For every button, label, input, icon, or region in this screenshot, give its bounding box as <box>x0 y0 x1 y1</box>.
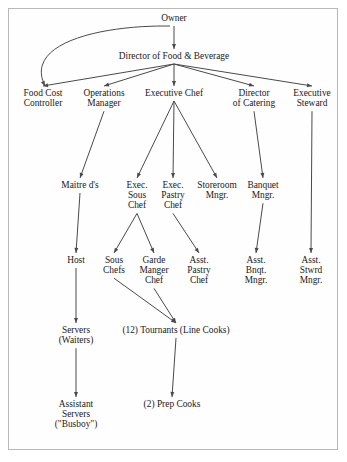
node-label-ops_mgr: OperationsManager <box>83 88 124 108</box>
org-chart-svg: OwnerDirector of Food & BeverageFood Cos… <box>0 0 347 462</box>
node-label-banquet: BanquetMngr. <box>247 180 279 200</box>
edge-exec_steward-to-asst_stwrd <box>309 111 313 253</box>
edge-dir_fb-to-ops_mgr <box>104 64 174 86</box>
node-sous_chefs[interactable]: SousChefs <box>103 255 125 275</box>
node-garde_manger[interactable]: GardeMangerChef <box>139 255 169 285</box>
node-exec_pastry[interactable]: Exec.PastryChef <box>161 180 185 210</box>
edge-garde_manger-to-tournants <box>154 288 176 323</box>
nodes-layer: OwnerDirector of Food & BeverageFood Cos… <box>24 13 331 430</box>
node-dir_catering[interactable]: Directorof Catering <box>233 88 276 108</box>
node-tournants[interactable]: (12) Tournants (Line Cooks) <box>122 325 229 336</box>
node-banquet[interactable]: BanquetMngr. <box>247 180 279 200</box>
node-label-exec_chef: Executive Chef <box>145 88 204 98</box>
node-exec_sous[interactable]: Exec.SousChef <box>126 180 147 210</box>
edge-dir_catering-to-banquet <box>254 111 264 178</box>
node-label-garde_manger: GardeMangerChef <box>139 255 169 285</box>
node-label-asst_stwrd: Asst.StwrdMngr. <box>300 255 323 285</box>
node-asst_bnqt[interactable]: Asst.Bnqt.Mngr. <box>245 255 268 285</box>
node-label-dir_fb: Director of Food & Beverage <box>119 51 229 61</box>
node-label-tournants: (12) Tournants (Line Cooks) <box>122 325 229 336</box>
node-label-asst_pastry: Asst.PastryChef <box>187 255 211 285</box>
node-label-exec_pastry: Exec.PastryChef <box>161 180 185 210</box>
edge-host-to-servers <box>74 268 78 323</box>
node-food_cost[interactable]: Food CostController <box>24 88 64 108</box>
node-servers[interactable]: Servers(Waiters) <box>59 325 94 346</box>
node-label-exec_steward: ExecutiveSteward <box>293 88 330 108</box>
node-host[interactable]: Host <box>67 255 85 265</box>
node-maitre_d[interactable]: Maitre d's <box>61 180 99 190</box>
node-label-asst_servers: AssistantServers("Busboy") <box>55 399 98 430</box>
org-chart-page: OwnerDirector of Food & BeverageFood Cos… <box>0 0 347 462</box>
node-prep_cooks[interactable]: (2) Prep Cooks <box>144 399 201 410</box>
edge-servers-to-asst_servers <box>74 348 78 397</box>
node-label-dir_catering: Directorof Catering <box>233 88 276 108</box>
node-asst_servers[interactable]: AssistantServers("Busboy") <box>55 399 98 430</box>
node-label-food_cost: Food CostController <box>24 88 64 108</box>
node-label-maitre_d: Maitre d's <box>61 180 99 190</box>
node-label-servers: Servers(Waiters) <box>59 325 94 346</box>
edge-exec_sous-to-sous_chefs <box>114 213 137 253</box>
node-label-exec_sous: Exec.SousChef <box>126 180 147 210</box>
node-dir_fb[interactable]: Director of Food & Beverage <box>119 51 229 61</box>
edge-ops_mgr-to-maitre_d <box>80 111 104 178</box>
node-exec_steward[interactable]: ExecutiveSteward <box>293 88 330 108</box>
node-asst_pastry[interactable]: Asst.PastryChef <box>187 255 211 285</box>
edge-dir_fb-to-exec_chef <box>172 64 176 86</box>
node-label-host: Host <box>67 255 85 265</box>
edge-exec_chef-to-exec_sous <box>137 101 174 178</box>
edge-exec_chef-to-storeroom <box>174 101 217 178</box>
edge-banquet-to-asst_bnqt <box>255 203 263 253</box>
node-exec_chef[interactable]: Executive Chef <box>145 88 204 98</box>
node-ops_mgr[interactable]: OperationsManager <box>83 88 124 108</box>
edge-dir_fb-to-exec_steward <box>174 64 312 87</box>
edge-maitre_d-to-host <box>74 193 80 253</box>
edge-exec_chef-to-exec_pastry <box>171 101 175 178</box>
edge-exec_pastry-to-asst_pastry <box>173 213 199 253</box>
node-storeroom[interactable]: StoreroomMngr. <box>197 180 237 200</box>
node-label-storeroom: StoreroomMngr. <box>197 180 237 200</box>
edge-owner-to-dir_fb <box>172 26 176 49</box>
node-label-owner: Owner <box>161 13 187 23</box>
node-owner[interactable]: Owner <box>161 13 187 23</box>
node-label-prep_cooks: (2) Prep Cooks <box>144 399 201 410</box>
node-label-asst_bnqt: Asst.Bnqt.Mngr. <box>245 255 268 285</box>
node-asst_stwrd[interactable]: Asst.StwrdMngr. <box>300 255 323 285</box>
edge-tournants-to-prep_cooks <box>170 338 176 397</box>
edge-exec_sous-to-garde_manger <box>137 213 154 253</box>
node-label-sous_chefs: SousChefs <box>103 255 125 275</box>
